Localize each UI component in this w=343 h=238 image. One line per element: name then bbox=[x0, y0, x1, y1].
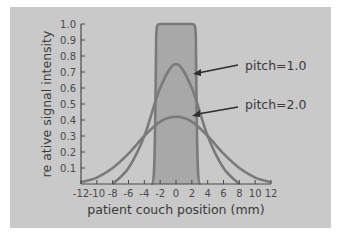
x-tick-label: -4 bbox=[139, 188, 149, 199]
annotation-label: pitch=2.0 bbox=[245, 97, 307, 112]
x-tick-label: -2 bbox=[155, 188, 165, 199]
x-tick-label: 4 bbox=[204, 188, 210, 199]
y-tick-label: 0.5 bbox=[60, 99, 76, 110]
x-tick-label: -10 bbox=[89, 188, 105, 199]
x-tick-label: 2 bbox=[189, 188, 195, 199]
y-tick-label: 0.4 bbox=[60, 115, 76, 126]
y-tick-label: 0.1 bbox=[60, 163, 76, 174]
x-axis-title: patient couch position (mm) bbox=[87, 202, 264, 217]
x-tick-label: 10 bbox=[249, 188, 262, 199]
annotation-pitch-2: pitch=2.0 bbox=[192, 97, 307, 117]
x-tick-label: -8 bbox=[108, 188, 118, 199]
y-tick-label: 0.9 bbox=[60, 35, 76, 46]
y-axis-title: re ative signal intensity bbox=[39, 30, 54, 177]
arrow-line bbox=[198, 107, 238, 114]
y-tick-label: 1.0 bbox=[60, 19, 76, 30]
annotation-pitch-1: pitch=1.0 bbox=[193, 58, 307, 76]
x-tick-label: 6 bbox=[220, 188, 226, 199]
y-tick-label: 0.7 bbox=[60, 67, 76, 78]
x-tick-label: -6 bbox=[124, 188, 134, 199]
y-tick-label: 0.6 bbox=[60, 83, 76, 94]
x-tick-label: 8 bbox=[236, 188, 242, 199]
rect-profile-fill bbox=[151, 24, 200, 184]
plot-area bbox=[81, 24, 271, 184]
annotation-label: pitch=1.0 bbox=[245, 58, 307, 73]
chart-svg: -12-10-8-6-4-20246810120.10.20.30.40.50.… bbox=[0, 0, 343, 238]
x-tick-label: -12 bbox=[73, 188, 89, 199]
y-tick-label: 0.8 bbox=[60, 51, 76, 62]
arrow-line bbox=[198, 65, 238, 73]
x-tick-label: 12 bbox=[265, 188, 278, 199]
y-tick-label: 0.3 bbox=[60, 131, 76, 142]
x-tick-label: 0 bbox=[173, 188, 179, 199]
y-tick-label: 0.2 bbox=[60, 147, 76, 158]
